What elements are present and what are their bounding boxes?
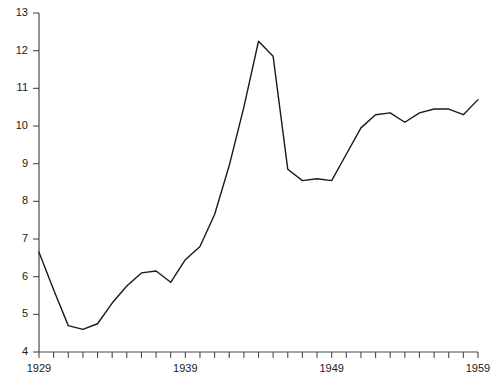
y-tick-label: 5: [4, 308, 28, 319]
x-tick-label: 1959: [456, 363, 500, 374]
x-axis-ticks: [39, 352, 478, 358]
y-tick-label: 13: [4, 7, 28, 18]
y-tick-label: 12: [4, 45, 28, 56]
y-tick-label: 10: [4, 120, 28, 131]
y-tick-label: 6: [4, 271, 28, 282]
chart-container: 45678910111213 1929193919491959: [0, 0, 502, 391]
y-tick-label: 9: [4, 158, 28, 169]
data-series-line: [39, 41, 478, 329]
y-tick-label: 8: [4, 195, 28, 206]
line-chart-plot: [0, 0, 502, 391]
y-axis-ticks: [33, 13, 39, 352]
y-tick-label: 7: [4, 233, 28, 244]
x-tick-label: 1929: [17, 363, 61, 374]
y-tick-label: 11: [4, 82, 28, 93]
y-tick-label: 4: [4, 346, 28, 357]
x-tick-label: 1949: [310, 363, 354, 374]
axes-group: [39, 13, 478, 352]
x-tick-label: 1939: [163, 363, 207, 374]
